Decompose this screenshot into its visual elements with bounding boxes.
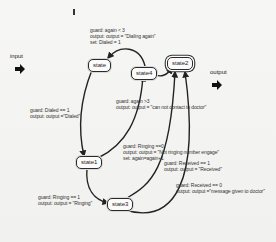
transition-label-state3-to-state2-received: guard: Received == 1 output: output = "R… bbox=[164, 160, 222, 172]
diagram-canvas: input output state state4 state2 state1 … bbox=[0, 0, 276, 242]
output-text: output: output = "Ringing" bbox=[38, 200, 92, 206]
cursor-icon bbox=[73, 9, 75, 15]
input-arrow-icon[interactable] bbox=[15, 64, 25, 74]
output-arrow-icon[interactable] bbox=[212, 80, 222, 90]
transition-label-state4-to-state: guard: again < 3 output: output = "Diali… bbox=[90, 27, 156, 45]
output-text: output: output ="message given to doctor… bbox=[176, 188, 265, 194]
transition-label-state1-to-state4: guard: Ringing ==0 output: output = "Not… bbox=[123, 143, 219, 161]
edge-state4-to-state bbox=[108, 49, 145, 66]
set-text: set: Dialed = 1 bbox=[90, 39, 156, 45]
output-text: output: output ="Dialed" bbox=[30, 113, 80, 119]
input-port-label: input bbox=[10, 53, 23, 59]
state-node-state4[interactable]: state4 bbox=[131, 67, 157, 80]
output-text: output: output = "Received" bbox=[164, 166, 222, 172]
transition-label-state3-to-state2-not-received: guard: Received == 0 output: output ="me… bbox=[176, 182, 265, 194]
transition-label-state4-to-state2: guard: again >3 output: output = "can no… bbox=[116, 98, 206, 110]
transition-label-state1-to-state3: guard: Ringing == 1 output: output = "Ri… bbox=[38, 194, 92, 206]
edge-state-to-state1 bbox=[81, 70, 92, 156]
transition-label-state-to-state1: guard: Dialed == 1 output: output ="Dial… bbox=[30, 107, 80, 119]
state-node-state2[interactable]: state2 bbox=[167, 57, 193, 70]
edge-state3-to-state2-received bbox=[127, 72, 175, 198]
output-port-label: output bbox=[210, 69, 227, 75]
state-node-state1[interactable]: state1 bbox=[76, 156, 102, 169]
state-node-state[interactable]: state bbox=[88, 59, 111, 72]
state-node-state3[interactable]: state3 bbox=[107, 198, 133, 211]
output-text: output: output = "can not contact to doc… bbox=[116, 104, 206, 110]
